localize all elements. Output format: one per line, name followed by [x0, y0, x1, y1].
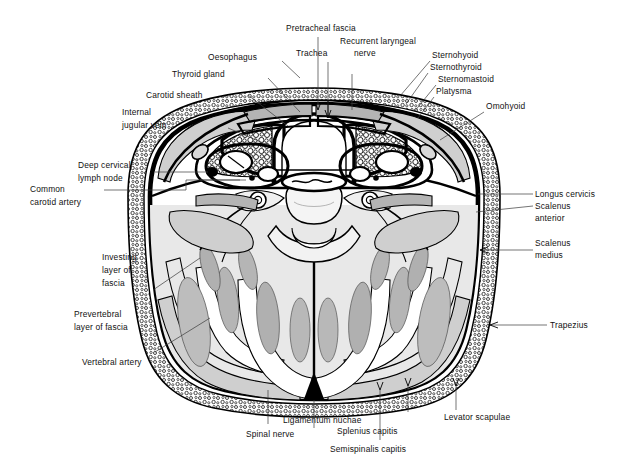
muscle-shading-8: [318, 298, 338, 362]
label-scalenus-medius-line2: medius: [535, 250, 563, 260]
label-pretracheal-fascia: Pretracheal fascia: [286, 23, 356, 33]
neck-cross-section-diagram: Pretracheal fascia Trachea Recurrent lar…: [0, 0, 627, 470]
oesophagus: [282, 173, 346, 191]
internal-jugular-vein-right: [376, 151, 408, 173]
label-longus-cervicis: Longus cervicis: [535, 189, 595, 199]
label-recurrent-laryngeal-line1: Recurrent laryngeal: [340, 36, 416, 46]
label-levator-scapulae: Levator scapulae: [444, 412, 510, 422]
vagus-nerve-right: [373, 175, 379, 181]
figure-canvas: Pretracheal fascia Trachea Recurrent lar…: [0, 0, 627, 470]
label-omohyoid: Omohyoid: [486, 101, 526, 111]
label-trapezius: Trapezius: [550, 320, 588, 330]
label-thyroid-gland: Thyroid gland: [172, 69, 225, 79]
deep-cervical-lymph-node-right: [410, 167, 422, 177]
label-splenius-capitis: Splenius capitis: [337, 426, 398, 436]
label-sternothyroid: Sternothyroid: [430, 62, 482, 72]
common-carotid-artery-left: [258, 167, 278, 181]
label-investing-line3: fascia: [102, 278, 125, 288]
label-recurrent-laryngeal-line2: nerve: [354, 48, 376, 58]
label-investing-line2: layer of: [102, 265, 131, 275]
leader-oesophagus: [282, 61, 300, 78]
label-vertebral-artery: Vertebral artery: [82, 357, 142, 367]
label-scalenus-anterior-line2: anterior: [535, 213, 565, 223]
trachea-lumen: [282, 121, 346, 176]
label-ligamentum-nuchae: Ligamentum nuchae: [283, 415, 362, 425]
label-sternomastoid: Sternomastoid: [438, 74, 494, 84]
label-deep-cervical-line2: lymph node: [78, 173, 123, 183]
label-investing-line1: Investing: [102, 252, 137, 262]
label-platysma: Platysma: [436, 86, 472, 96]
muscle-shading-7: [290, 298, 310, 362]
common-carotid-artery-right: [350, 167, 370, 181]
label-internal-jugular-line1: Internal: [122, 107, 151, 117]
label-scalenus-medius-line1: Scalenus: [535, 238, 571, 248]
label-deep-cervical-line1: Deep cervical: [78, 160, 131, 170]
label-semispinalis-capitis: Semispinalis capitis: [330, 444, 406, 454]
label-scalenus-anterior-line1: Scalenus: [535, 201, 571, 211]
label-prevertebral-line1: Prevertebral: [74, 309, 121, 319]
label-trachea: Trachea: [296, 48, 328, 58]
label-oesophagus: Oesophagus: [208, 52, 257, 62]
label-common-carotid-line2: carotid artery: [30, 197, 82, 207]
label-prevertebral-line2: layer of fascia: [74, 322, 128, 332]
label-sternohyoid: Sternohyoid: [432, 50, 479, 60]
label-common-carotid-line1: Common: [30, 184, 65, 194]
label-carotid-sheath: Carotid sheath: [146, 90, 203, 100]
label-spinal-nerve: Spinal nerve: [246, 429, 295, 439]
label-internal-jugular-line2: jugular vein: [121, 120, 167, 130]
vagus-nerve-left: [249, 175, 255, 181]
